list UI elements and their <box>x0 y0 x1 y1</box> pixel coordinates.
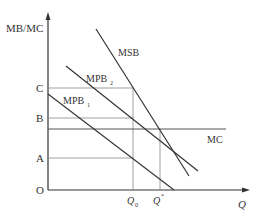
q0-sub: 0 <box>135 202 138 208</box>
mc-label: MC <box>207 134 223 145</box>
level-a-label: A <box>36 152 44 164</box>
mpb2-sub: 2 <box>110 80 113 86</box>
msb-label: MSB <box>118 47 139 58</box>
y-axis-label: MB/MC <box>6 22 43 34</box>
x-axis-arrow-icon <box>242 188 250 193</box>
mpb2-label: MPB <box>86 73 107 84</box>
externality-diagram: MB/MC Q O C B A MSB MPB 2 MPB 1 MC Q 0 Q… <box>0 0 261 217</box>
level-c-label: C <box>36 82 43 94</box>
mpb1-label: MPB <box>63 95 84 106</box>
x-axis-label: Q <box>238 198 246 210</box>
qstar-sup: * <box>161 193 164 199</box>
level-b-label: B <box>36 112 43 124</box>
msb-curve <box>96 29 189 176</box>
qstar-label: Q <box>153 195 161 206</box>
mpb1-curve <box>48 94 174 190</box>
mpb1-sub: 1 <box>87 102 90 108</box>
y-axis-arrow-icon <box>46 12 51 20</box>
origin-label: O <box>36 184 44 196</box>
q0-label: Q <box>127 195 135 206</box>
